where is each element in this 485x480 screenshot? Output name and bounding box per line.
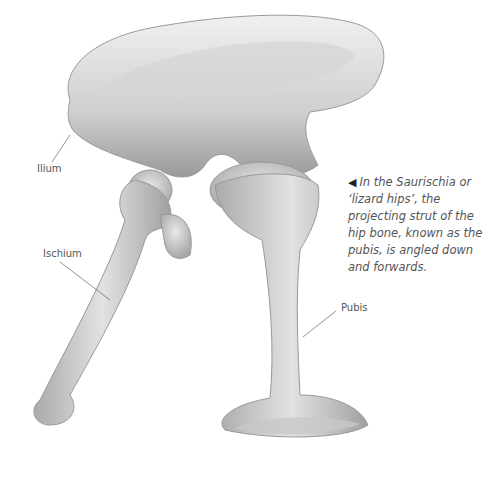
hip-bone-illustration: Ilium Ischium Pubis ◀In the Saurischia o… [0, 0, 485, 480]
caption-text: In the Saurischia or ‘lizard hips’, the … [348, 175, 482, 274]
ischium-label: Ischium [43, 248, 82, 259]
figure-caption: ◀In the Saurischia or ‘lizard hips’, the… [348, 174, 485, 276]
ilium-leader-line [52, 135, 70, 162]
ischium-bone [34, 180, 171, 425]
pubis-leader-line [303, 311, 336, 337]
ilium-label: Ilium [37, 163, 62, 174]
left-arrow-icon: ◀ [348, 176, 356, 189]
pubis-label: Pubis [341, 302, 368, 313]
